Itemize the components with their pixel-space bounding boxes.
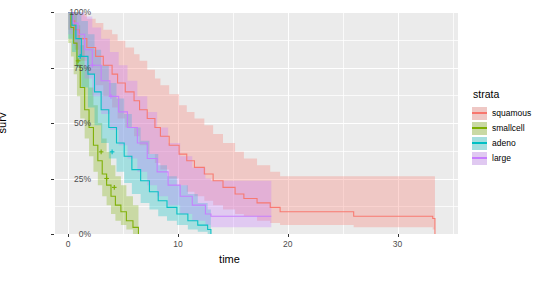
y-axis-tick-label: 50% — [74, 118, 91, 128]
legend-title: strata — [473, 88, 552, 100]
y-axis-tick — [51, 68, 54, 69]
x-axis-tick — [178, 234, 179, 237]
legend: strata squamoussmallcelladenolarge — [472, 88, 552, 166]
legend-key-adeno — [472, 137, 487, 150]
y-axis-tick-label: 25% — [74, 174, 91, 184]
censoring-mark-large — [109, 94, 114, 99]
x-axis-tick-label: 20 — [283, 239, 292, 249]
y-axis-tick-label: 100% — [69, 7, 91, 17]
legend-label: adeno — [492, 138, 516, 148]
censoring-mark-adeno — [110, 150, 115, 155]
legend-label: large — [492, 153, 511, 163]
y-axis-tick — [51, 234, 54, 235]
plot-panel-wrapper — [55, 12, 458, 234]
y-axis-title: surv — [0, 113, 8, 134]
survival-plot-figure: 0%25%50%75%100% 0102030 surv time strata… — [0, 0, 553, 289]
censoring-mark-smallcell — [104, 176, 109, 181]
censoring-mark-adeno — [78, 54, 83, 59]
x-axis-title-text: time — [219, 253, 240, 265]
legend-label: smallcell — [492, 123, 525, 133]
censoring-mark-smallcell — [112, 185, 117, 190]
legend-key-smallcell — [472, 122, 487, 135]
legend-item-smallcell[interactable]: smallcell — [472, 121, 552, 135]
x-axis-tick — [288, 234, 289, 237]
y-axis-tick-label: 75% — [74, 63, 91, 73]
x-axis-tick-label: 30 — [393, 239, 402, 249]
y-axis-tick — [51, 12, 54, 13]
x-axis-tick — [68, 234, 69, 237]
legend-key-squamous — [472, 107, 487, 120]
censoring-mark-smallcell — [99, 150, 104, 155]
x-axis-title: time — [0, 253, 553, 265]
censoring-mark-layer — [55, 12, 458, 234]
legend-item-large[interactable]: large — [472, 151, 552, 165]
y-axis-tick — [51, 179, 54, 180]
legend-key-large — [472, 152, 487, 165]
y-axis-tick — [51, 123, 54, 124]
legend-label: squamous — [492, 108, 531, 118]
x-axis-tick-label: 10 — [173, 239, 182, 249]
legend-items: squamoussmallcelladenolarge — [472, 106, 552, 165]
legend-item-adeno[interactable]: adeno — [472, 136, 552, 150]
x-axis-tick-label: 0 — [66, 239, 71, 249]
y-axis-tick-label: 0% — [79, 229, 91, 239]
legend-item-squamous[interactable]: squamous — [472, 106, 552, 120]
plot-panel — [55, 12, 458, 234]
x-axis-tick — [398, 234, 399, 237]
